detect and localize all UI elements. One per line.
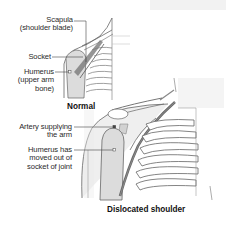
- dislocated-shoulder-illustration: [82, 98, 212, 200]
- label-line: bone): [18, 85, 54, 93]
- caption-dislocated: Dislocated shoulder: [107, 205, 185, 214]
- label-line: socket of joint: [27, 163, 72, 171]
- label-line: the arm: [19, 131, 72, 139]
- label-line: (shoulder blade): [20, 24, 73, 32]
- diagram-artwork: [0, 0, 226, 226]
- caption-normal: Normal: [67, 102, 95, 111]
- normal-shoulder-illustration: [64, 0, 226, 108]
- label-humerus-dislocated: Humerus has moved out of socket of joint: [27, 146, 72, 171]
- label-humerus: Humerus (upper arm bone): [18, 68, 54, 93]
- label-artery: Artery supplying the arm: [19, 123, 72, 140]
- label-socket: Socket: [28, 53, 51, 61]
- label-scapula: Scapula (shoulder blade): [20, 16, 73, 33]
- label-line: Socket: [28, 53, 51, 61]
- shoulder-dislocation-diagram: Scapula (shoulder blade) Socket Humerus …: [0, 0, 226, 226]
